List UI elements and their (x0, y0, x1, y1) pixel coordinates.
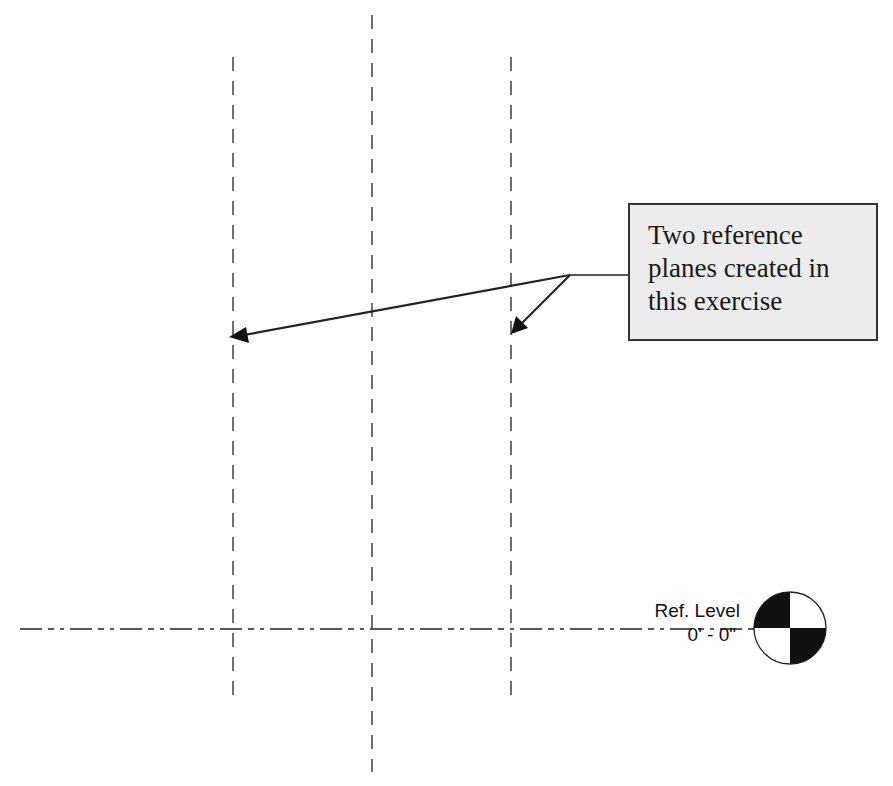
arrowhead-left-icon (229, 327, 249, 343)
drawing-canvas (0, 0, 893, 786)
callout-line-1: Two reference (648, 219, 858, 252)
level-name[interactable]: Ref. Level (600, 600, 740, 622)
callout-line-3: this exercise (648, 285, 858, 318)
level-elevation[interactable]: 0' - 0" (600, 624, 736, 646)
callout-line-2: planes created in (648, 252, 858, 285)
callout-box: Two reference planes created in this exe… (628, 203, 878, 341)
level-head-icon[interactable] (754, 592, 826, 664)
